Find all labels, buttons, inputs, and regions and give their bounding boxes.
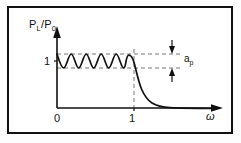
- ripple-amplitude-label-sub: p: [190, 59, 194, 66]
- figure-container: PL/P0 1 0 1 ω ap: [0, 0, 241, 143]
- x-tick-label-zero: 0: [54, 112, 60, 124]
- ripple-lower-arrowhead: [169, 68, 175, 76]
- x-tick-label-one: 1: [129, 112, 135, 124]
- ripple-amplitude-label: ap: [184, 53, 193, 66]
- y-axis-label: PL/P0: [29, 18, 56, 33]
- y-axis-label-divider: /P: [41, 18, 52, 30]
- x-axis-label: ω: [206, 110, 215, 122]
- y-tick-label-one: 1: [44, 55, 50, 67]
- y-axis-label-sub-zero: 0: [52, 24, 56, 33]
- ripple-upper-arrowhead: [169, 46, 175, 54]
